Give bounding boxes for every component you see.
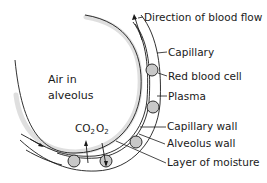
label-red-blood-cell: Red blood cell: [168, 70, 242, 82]
label-capillary: Capillary: [168, 46, 214, 58]
red-blood-cell: [147, 101, 159, 113]
label-layer-of-moisture: Layer of moisture: [167, 156, 259, 168]
label-plasma: Plasma: [168, 90, 206, 102]
o2-label: O2: [96, 122, 109, 136]
alveolus-diagram: Air in alveolus CO2 O2 Direction of bloo…: [0, 0, 267, 183]
region-label-line1: Air in: [48, 73, 77, 86]
label-capillary-wall: Capillary wall: [167, 120, 237, 132]
region-label-line2: alveolus: [48, 89, 94, 102]
red-blood-cell: [146, 64, 158, 76]
co2-label: CO2: [75, 122, 95, 136]
red-blood-cell: [130, 136, 142, 148]
label-direction-of-blood-flow: Direction of blood flow: [144, 11, 263, 23]
diagram-canvas: Air in alveolus CO2 O2 Direction of bloo…: [0, 0, 267, 183]
label-alveolus-wall: Alveolus wall: [167, 137, 235, 149]
red-blood-cell: [68, 155, 80, 167]
